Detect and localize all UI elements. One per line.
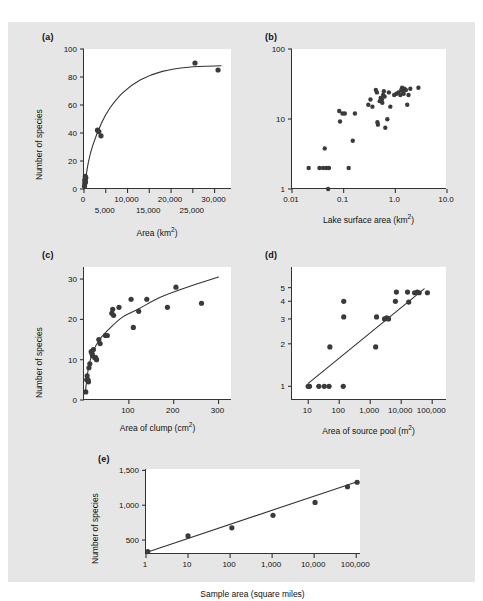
panel-b-x-tick-label: 10.0 [438,195,454,204]
panel-d-x-tick-label: 100 [332,406,345,415]
data-point [341,299,346,304]
data-point [306,166,310,170]
data-point [199,301,204,306]
data-point [86,379,91,384]
panel-d-x-tick-label: 10,000 [388,406,412,415]
panel-b-y-tick-label: 10 [249,115,285,124]
panel-e-x-tick-label: 10 [183,560,192,569]
panel-d-x-axis-title: Area of source pool (m2) [276,424,461,436]
data-point [355,480,360,485]
panel-a-x-tick-label: 30,000 [201,195,225,204]
panel-e-x-axis-title: Sample area (square miles) [135,589,370,599]
data-point [327,344,332,349]
data-point [136,309,141,314]
panel-e-y-tick-label: 1,000 [103,501,139,510]
data-point [385,117,389,121]
data-point [404,88,408,92]
panel-c: (c) Number of species Area of clump (cm2… [30,250,240,450]
panel-a: (a) Number of species Area (km2) 0204060… [30,32,240,247]
panel-a-y-tick-label: 60 [41,101,77,110]
panel-e: (e) Number of species Sample area (squar… [86,454,386,579]
panel-d-y-tick-label: 3 [249,314,285,323]
data-point [405,103,409,107]
panel-b-plot-area [291,49,446,189]
data-point [83,175,88,180]
panel-e-x-tick-label: 100 [222,560,235,569]
panel-c-data-layer [84,267,232,400]
data-point [87,361,92,366]
panel-a-y-tick-label: 80 [41,73,77,82]
data-point [386,316,391,321]
data-point [406,93,410,97]
panel-e-x-tick-label: 1 [143,560,147,569]
data-point [270,513,275,518]
data-point [374,314,379,319]
panel-e-y-tick-label: 1,500 [103,466,139,475]
panel-d-x-tick-label: 1,000 [359,406,379,415]
panel-b-label: (b) [265,32,277,42]
data-point [401,91,405,95]
data-point [327,166,331,170]
panel-a-y-tick-label: 100 [41,45,77,54]
panel-e-y-tick-label: 500 [103,536,139,545]
panel-a-y-tick-label: 0 [41,185,77,194]
data-point [393,299,398,304]
data-point [406,299,411,304]
panel-a-x-tick-label: 0 [81,195,85,204]
data-point [145,549,150,554]
panel-a-x-axis-title: Area (km2) [83,226,231,238]
data-point [326,384,331,389]
panel-a-y-tick-label: 20 [41,157,77,166]
data-point [376,122,380,126]
data-point [144,297,149,302]
panel-a-y-tick-label: 40 [41,129,77,138]
data-point [394,289,399,294]
panel-b-data-layer [292,49,447,189]
panel-a-label: (a) [42,32,54,42]
data-point [341,384,346,389]
data-point [341,314,346,319]
data-point [405,289,410,294]
data-point [416,85,420,89]
panel-c-y-tick-label: 0 [41,396,77,405]
data-point [312,500,317,505]
data-point [425,290,430,295]
panel-d-data-layer [292,267,447,400]
data-point [346,166,350,170]
data-point [388,104,392,108]
data-point [382,89,386,93]
data-point [387,90,391,94]
data-point [345,484,350,489]
data-point [351,138,355,142]
panel-b-x-axis-title: Lake surface area (km2) [276,213,461,225]
panel-c-y-tick-label: 30 [41,275,77,284]
panel-d-y-tick-label: 5 [249,283,285,292]
panel-c-x-tick-label: 200 [166,406,179,415]
data-point [375,90,379,94]
data-point [373,344,378,349]
data-point [326,187,330,191]
panel-b: (b) Lake surface area (km2) 1101000.010.… [253,32,468,247]
data-point [215,67,220,72]
panel-a-x-tick-label: 10,000 [114,195,138,204]
panel-a-plot-area [83,49,231,189]
panel-e-label: (e) [98,454,110,464]
panel-a-y-axis-title: Number of species [34,109,44,180]
panel-e-y-axis-title: Number of species [90,493,100,564]
panel-a-data-layer [84,49,232,189]
data-point [370,104,374,108]
data-point [338,119,342,123]
data-point [131,325,136,330]
panel-a-x-tick-label: 20,000 [158,195,182,204]
data-point [322,384,327,389]
panel-b-y-tick-label: 1 [249,185,285,194]
data-point [110,307,115,312]
data-point [91,347,96,352]
panel-e-plot-area [145,469,360,554]
panel-b-y-tick-label: 100 [249,45,285,54]
data-point [323,146,327,150]
panel-c-x-tick-label: 100 [121,406,134,415]
data-point [316,384,321,389]
panel-c-x-tick-label: 300 [211,406,224,415]
panel-e-x-tick-label: 10,000 [301,560,325,569]
